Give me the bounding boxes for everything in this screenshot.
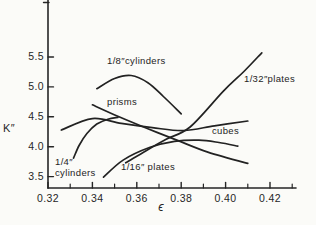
series-label: 1/16″ plates (121, 162, 175, 173)
x-tick-label: 0.32 (34, 192, 62, 204)
curve-1-4-in-cylinders (74, 117, 118, 158)
x-tick-label: 0.34 (78, 192, 106, 204)
y-tick-label: 3.5 (16, 170, 44, 182)
x-tick-label: 0.38 (167, 192, 195, 204)
series-label: 1/8″cylinders (107, 56, 166, 67)
y-tick-label: 5.5 (16, 50, 44, 62)
series-label: cubes (212, 126, 239, 137)
y-tick-label: 5.0 (16, 80, 44, 92)
curve-1-8-in-cylinders (97, 75, 181, 113)
series-label: 1/4″ cylinders (55, 157, 96, 178)
x-tick-label: 0.40 (212, 192, 240, 204)
series-label: prisms (107, 97, 137, 108)
series-label: 1/32″plates (244, 74, 295, 85)
chart-figure: K″ ϵ 3.54.04.55.05.50.320.340.360.380.40… (0, 0, 316, 225)
x-tick-label: 0.36 (123, 192, 151, 204)
y-tick-label: 4.0 (16, 140, 44, 152)
y-tick-label: 4.5 (16, 110, 44, 122)
y-axis-label: K″ (3, 122, 15, 134)
x-tick-label: 0.42 (256, 192, 284, 204)
